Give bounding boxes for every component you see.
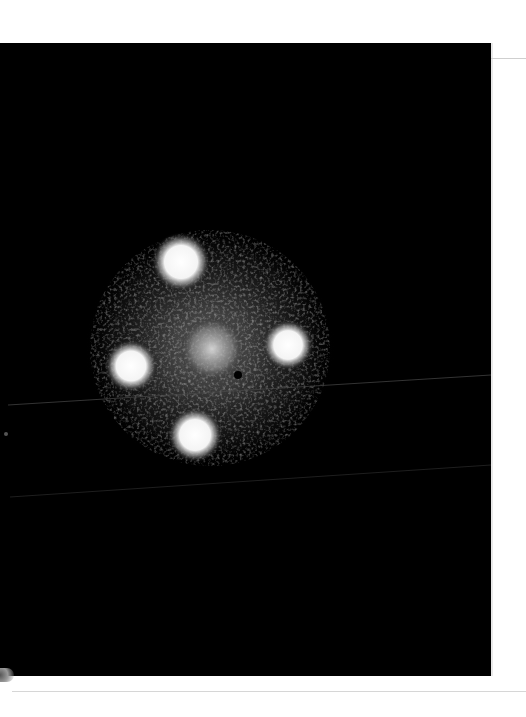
quasar-image-right (262, 319, 314, 371)
quasar-image-bottom (167, 407, 223, 463)
astronomical-image (0, 43, 491, 676)
quasar-image-top (151, 232, 211, 292)
scan-smudge (0, 668, 14, 682)
divider-line (12, 691, 526, 692)
scan-line (10, 465, 491, 497)
divider-line (491, 58, 526, 59)
stray-dot (4, 432, 8, 436)
lens-image-canvas (0, 43, 491, 676)
quasar-image-left (104, 339, 158, 393)
dark-speck (234, 371, 242, 379)
frame-edge (491, 43, 493, 676)
